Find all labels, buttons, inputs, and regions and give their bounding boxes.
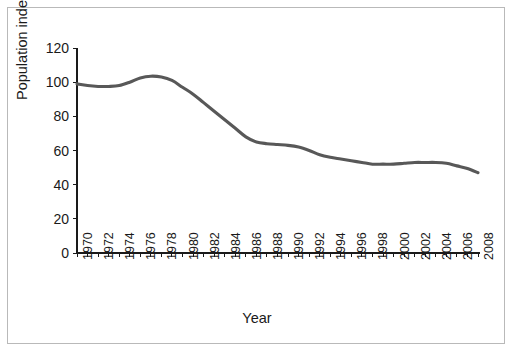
x-tick-label-1988: 1988 [272,232,285,260]
x-tick-label-2006: 2006 [462,232,475,260]
x-tick-label-1998: 1998 [377,232,390,260]
x-tick-label-1972: 1972 [103,232,116,260]
x-tick-label-2002: 2002 [420,232,433,260]
x-tick-label-1980: 1980 [188,232,201,260]
x-tick-label-1970: 1970 [82,232,95,260]
x-tick-label-1992: 1992 [314,232,327,260]
x-tick-label-1974: 1974 [124,232,137,260]
chart-figure: 120100806040200 197019721974197619781980… [0,0,514,353]
x-tick-label-1984: 1984 [230,232,243,260]
x-tick-label-2008: 2008 [483,232,496,260]
x-axis-title: Year [0,310,514,326]
x-tick-label-1990: 1990 [293,232,306,260]
population-index-line [77,76,478,173]
x-tick-label-1982: 1982 [209,232,222,260]
y-tick-label-60: 60 [25,144,69,158]
x-tick-label-1978: 1978 [166,232,179,260]
y-tick-label-80: 80 [25,109,69,123]
x-tick-label-1996: 1996 [356,232,369,260]
x-tick-label-1976: 1976 [145,232,158,260]
x-tick-label-2004: 2004 [441,232,454,260]
y-tick-label-40: 40 [25,178,69,192]
y-tick-label-120: 120 [25,41,69,55]
y-tick-label-0: 0 [25,246,69,260]
y-tick-label-100: 100 [25,75,69,89]
chart-canvas [0,0,514,353]
y-axis-title: Population index [14,0,30,100]
x-tick-label-2000: 2000 [399,232,412,260]
x-tick-label-1986: 1986 [251,232,264,260]
y-tick-label-20: 20 [25,212,69,226]
x-tick-label-1994: 1994 [335,232,348,260]
